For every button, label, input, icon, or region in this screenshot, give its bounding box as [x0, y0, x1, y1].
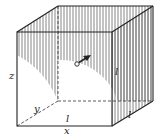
label-x: x [64, 125, 70, 136]
label-l-bottom: l [66, 113, 69, 124]
label-l-right-face: l [115, 66, 118, 77]
particle-icon [75, 62, 79, 66]
cube-diagram: z y l x l l [0, 0, 161, 140]
label-l-right-edge: l [128, 109, 131, 120]
label-y: y [33, 103, 40, 114]
label-z: z [8, 70, 15, 81]
